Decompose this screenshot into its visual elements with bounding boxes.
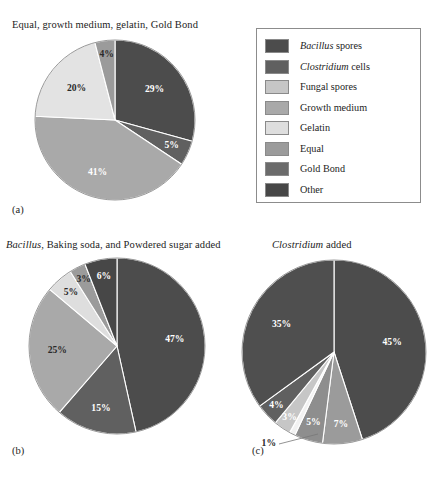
chart-b-title-genus: Bacillus: [6, 239, 41, 250]
figure-root: Equal, growth medium, gelatin, Gold Bond…: [0, 0, 439, 478]
legend-item-label: Other: [300, 184, 323, 196]
legend: Bacillus sporesClostridium cellsFungal s…: [256, 28, 421, 203]
subfigure-label-b: (b): [12, 445, 24, 457]
pie-slice-label: 5%: [165, 139, 179, 150]
pie-slice-label: 4%: [269, 399, 283, 410]
pie-slice-label: 29%: [145, 83, 164, 94]
legend-swatch: [265, 183, 289, 197]
chart-a-title-rest: Equal, growth medium, gelatin, Gold Bond: [12, 19, 198, 30]
legend-swatch: [265, 142, 289, 156]
legend-item: Clostridium cells: [265, 57, 420, 77]
legend-item-label: Bacillus spores: [300, 40, 362, 52]
legend-item: Equal: [265, 139, 420, 159]
legend-swatch: [265, 39, 289, 53]
legend-label-genus: Bacillus: [300, 40, 333, 51]
legend-item: Bacillus spores: [265, 36, 420, 56]
legend-swatch: [265, 162, 289, 176]
chart-b-title: Bacillus, Baking soda, and Powdered suga…: [6, 239, 221, 251]
pie-slice-label: 5%: [306, 416, 320, 427]
pie-slice-label: 20%: [67, 82, 86, 93]
legend-item-label: Gelatin: [300, 122, 330, 134]
legend-swatch: [265, 60, 289, 74]
pie-chart-c: 45%7%5%3%4%35%1%: [236, 254, 432, 450]
legend-label-rest: spores: [333, 40, 362, 51]
chart-c-title-genus: Clostridium: [272, 239, 323, 250]
legend-label-rest: cells: [349, 61, 370, 72]
legend-item: Gelatin: [265, 118, 420, 138]
pie-slice-label: 3%: [77, 273, 91, 284]
subfigure-label-a: (a): [12, 204, 24, 216]
pie-slice-label: 15%: [91, 402, 110, 413]
pie-slice-label: 45%: [383, 336, 402, 347]
legend-item: Other: [265, 180, 420, 200]
chart-a-title: Equal, growth medium, gelatin, Gold Bond: [12, 19, 198, 31]
chart-c-title: Clostridium added: [272, 239, 352, 251]
pie-slice-label: 7%: [334, 418, 348, 429]
legend-swatch: [265, 101, 289, 115]
pie-slice-label: 3%: [282, 411, 296, 422]
legend-item-label: Clostridium cells: [300, 61, 370, 73]
legend-label-genus: Clostridium: [300, 61, 349, 72]
chart-b-title-rest: , Baking soda, and Powdered sugar added: [41, 239, 220, 250]
legend-item: Growth medium: [265, 98, 420, 118]
pie-slice-label: 41%: [88, 166, 107, 177]
legend-item-label: Fungal spores: [300, 81, 357, 93]
subfigure-label-c: (c): [252, 445, 264, 457]
pie-slice-label: 5%: [64, 286, 78, 297]
legend-item: Fungal spores: [265, 77, 420, 97]
pie-slice-label: 35%: [272, 318, 291, 329]
pie-slice-label: 25%: [48, 344, 67, 355]
legend-swatch: [265, 121, 289, 135]
legend-item-label: Growth medium: [300, 102, 367, 114]
pie-slice-label: 4%: [100, 48, 114, 59]
pie-slice-label: 6%: [97, 270, 111, 281]
pie-slice-label: 47%: [165, 333, 184, 344]
chart-c-title-rest: added: [323, 239, 351, 250]
pie-chart-b: 47%15%25%5%3%6%: [23, 252, 211, 440]
legend-item: Gold Bond: [265, 159, 420, 179]
pie-chart-a: 29%5%41%20%4%: [29, 34, 201, 206]
legend-item-label: Gold Bond: [300, 163, 345, 175]
legend-swatch: [265, 80, 289, 94]
legend-item-label: Equal: [300, 143, 324, 155]
